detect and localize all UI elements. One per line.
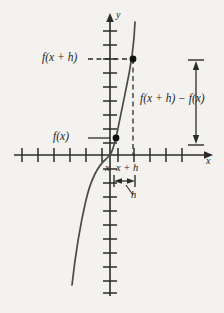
- h-bracket-head-right: [127, 178, 135, 184]
- difference-quotient-figure: [0, 0, 224, 313]
- label-x-plus-h-tick: x + h: [116, 163, 138, 174]
- label-difference: f(x + h) − f(x): [140, 93, 205, 105]
- difference-arrow-head-up: [193, 61, 199, 70]
- point-f-of-x: [113, 135, 120, 142]
- label-f-of-x: f(x): [53, 131, 69, 143]
- label-y-axis: y: [116, 10, 120, 20]
- label-f-of-x-plus-h: f(x + h): [42, 52, 77, 64]
- y-axis-arrowhead: [106, 13, 114, 22]
- label-x-tick: x: [105, 163, 110, 174]
- function-curve: [72, 22, 135, 285]
- point-f-of-x-plus-h: [130, 56, 137, 63]
- label-x-axis: x: [206, 156, 210, 166]
- label-h-measure: h: [131, 190, 136, 201]
- difference-arrow-head-down: [193, 135, 199, 144]
